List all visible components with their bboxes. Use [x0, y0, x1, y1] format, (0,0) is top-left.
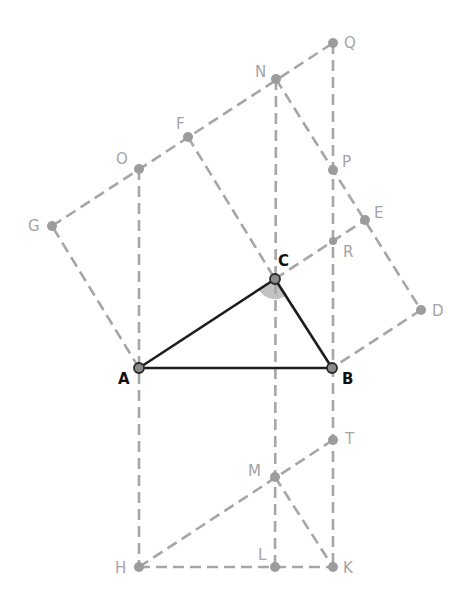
- point-Q: [328, 38, 338, 48]
- label-C: C: [278, 252, 289, 270]
- label-A: A: [118, 370, 130, 388]
- segment-M-K: [275, 477, 333, 567]
- label-P: P: [342, 153, 351, 171]
- point-C: [270, 274, 280, 284]
- label-B: B: [342, 370, 353, 388]
- side-BC: [275, 279, 332, 368]
- label-T: T: [344, 430, 355, 448]
- segment-F-C: [188, 137, 275, 279]
- point-K: [328, 562, 338, 572]
- side-CA: [139, 279, 275, 368]
- label-R: R: [343, 243, 353, 261]
- segment-H-T: [139, 440, 333, 567]
- triangle-points: [134, 274, 337, 373]
- point-H: [134, 562, 144, 572]
- label-N: N: [255, 63, 266, 81]
- triangle-abc: [139, 279, 332, 368]
- segment-N-D: [276, 79, 421, 310]
- label-L: L: [258, 546, 267, 564]
- geometry-diagram: A B C D E F G H K L M N O P Q R T: [0, 0, 473, 609]
- label-G: G: [28, 217, 40, 235]
- label-D: D: [432, 302, 444, 320]
- point-P: [328, 165, 338, 175]
- point-N: [271, 74, 281, 84]
- point-A: [134, 363, 144, 373]
- point-E: [360, 215, 370, 225]
- point-M: [270, 472, 280, 482]
- segment-G-Q: [52, 43, 333, 226]
- point-F: [183, 132, 193, 142]
- segment-A-G: [52, 226, 139, 368]
- label-F: F: [176, 115, 185, 133]
- segment-N-L: [275, 79, 276, 567]
- point-G: [47, 221, 57, 231]
- point-O: [134, 164, 144, 174]
- label-O: O: [116, 150, 128, 168]
- point-L: [270, 562, 280, 572]
- segment-D-B: [332, 310, 421, 368]
- point-R: [329, 237, 337, 245]
- label-H: H: [115, 559, 126, 577]
- point-T: [328, 435, 338, 445]
- point-B: [327, 363, 337, 373]
- label-M: M: [248, 462, 261, 480]
- label-Q: Q: [344, 34, 356, 52]
- label-K: K: [343, 559, 354, 577]
- point-D: [416, 305, 426, 315]
- label-E: E: [374, 204, 383, 222]
